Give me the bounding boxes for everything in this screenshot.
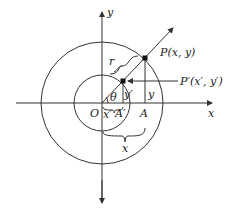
x-outer-label: x [122,142,129,155]
y-outer-label: y [147,88,155,101]
point-a-prime-label: A′ [114,107,126,120]
point-p [143,56,148,61]
polar-diagram: y x O P(x, y) P′(x′, y′) A A′ r θ y y′ x… [0,0,238,214]
point-p-prime-label: P′(x′, y′) [179,75,223,88]
x-inner-label: x′ [103,108,112,121]
point-a-label: A [139,107,148,120]
theta-label: θ [110,91,117,104]
y-axis-label: y [106,6,114,19]
origin-label: O [90,107,99,120]
point-p-prime [121,79,126,84]
r-label: r [109,55,115,68]
y-inner-label: y′ [123,88,133,101]
point-p-label: P(x, y) [159,46,195,59]
x-axis-label: x [208,107,215,120]
theta-arc [106,97,108,103]
diagram-canvas: y x O P(x, y) P′(x′, y′) A A′ r θ y y′ x… [0,0,238,214]
